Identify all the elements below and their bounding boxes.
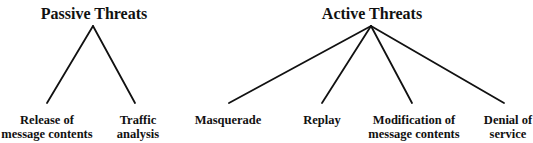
leaf-line1: Release of	[1, 113, 92, 127]
leaf-line2: message contents	[368, 127, 459, 141]
branch-replay	[322, 26, 371, 103]
leaf-traffic-analysis: Traffic analysis	[117, 113, 159, 141]
branch-release	[47, 26, 93, 103]
leaf-line1: Modification of	[368, 113, 459, 127]
leaf-line1: Replay	[303, 113, 341, 127]
branch-traffic	[93, 26, 135, 103]
leaf-line2: service	[484, 127, 532, 141]
leaf-denial-of-service: Denial of service	[484, 113, 532, 141]
leaf-line1: Masquerade	[195, 113, 262, 127]
branch-masquerade	[229, 26, 371, 103]
leaf-line1: Denial of	[484, 113, 532, 127]
leaf-line2: message contents	[1, 127, 92, 141]
leaf-modification-of-message-contents: Modification of message contents	[368, 113, 459, 141]
active-threats-title: Active Threats	[322, 6, 422, 22]
passive-threats-title: Passive Threats	[41, 6, 148, 22]
leaf-line1: Traffic	[117, 113, 159, 127]
leaf-replay: Replay	[303, 113, 341, 127]
leaf-masquerade: Masquerade	[195, 113, 262, 127]
leaf-release-of-message-contents: Release of message contents	[1, 113, 92, 141]
leaf-line2: analysis	[117, 127, 159, 141]
